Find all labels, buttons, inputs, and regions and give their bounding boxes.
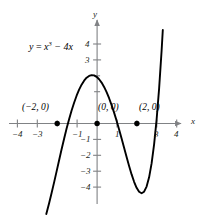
point-label-root-right: (2, 0) — [139, 103, 160, 113]
y-tick-label-4: 4 — [85, 40, 90, 49]
equation-label: y = x3 − 4x — [29, 42, 73, 52]
x-tick-label-minus-4: −4 — [12, 130, 23, 139]
equation-rest: − 4x — [52, 41, 73, 52]
point-marker-root-left — [55, 121, 60, 126]
x-axis-name: x — [191, 117, 195, 126]
y-tick-label-minus-3: −3 — [80, 167, 91, 176]
x-tick-label-1: 1 — [115, 130, 120, 139]
point-marker-origin — [94, 121, 99, 126]
y-tick-label-minus-1: −1 — [80, 135, 91, 144]
point-marker-root-right — [134, 121, 139, 126]
cubic-curve — [46, 30, 163, 214]
graph-figure: y = x3 − 4x y x −4 −3 −1 1 3 4 4 3 −1 −2… — [0, 0, 211, 217]
y-tick-label-minus-4: −4 — [80, 183, 91, 192]
y-tick-label-3: 3 — [85, 56, 90, 65]
point-label-origin: (0, 0) — [98, 103, 119, 113]
x-tick-label-4: 4 — [174, 130, 179, 139]
y-tick-label-minus-2: −2 — [80, 151, 91, 160]
x-tick-label-minus-3: −3 — [32, 130, 43, 139]
point-label-root-left: (−2, 0) — [22, 103, 49, 113]
x-tick-label-3: 3 — [154, 130, 159, 139]
y-axis-name: y — [93, 10, 97, 19]
equation-equals: = — [33, 41, 44, 52]
